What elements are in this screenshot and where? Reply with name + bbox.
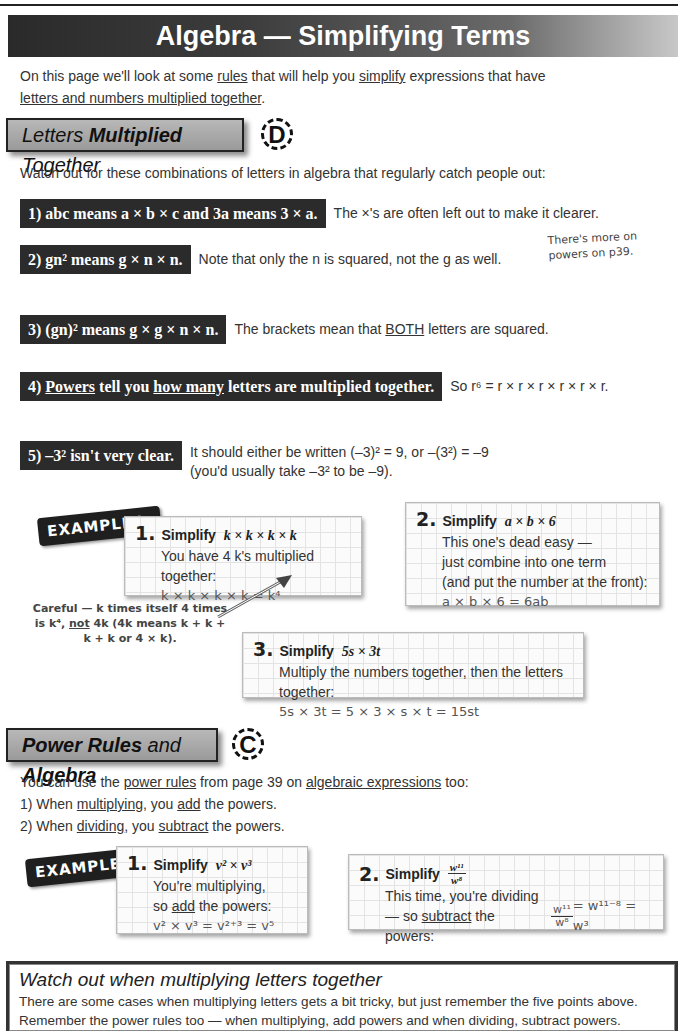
rule-5-note: It should either be written (–3)² = 9, o… — [190, 443, 489, 481]
grade-badge-d: D — [261, 118, 293, 150]
rule-2-note: Note that only the n is squared, not the… — [199, 250, 502, 269]
power-example-box-1: 1.Simplify v² × v³ You're multiplying, s… — [116, 846, 308, 934]
rule-5: 5) –3² isn't very clear. It should eithe… — [20, 441, 489, 481]
side-note-powers: There's more on powers on p39. — [547, 227, 668, 263]
summary-line-1: There are some cases when multiplying le… — [19, 992, 665, 1011]
grade-badge-c: C — [232, 728, 264, 760]
power-example-box-2: 2.Simplify w¹¹w⁸ This time, you're divid… — [348, 854, 664, 930]
rule-4: 4) Powers tell you how many letters are … — [20, 372, 608, 401]
rule-3: 3) (gn)² means g × g × n × n. The bracke… — [20, 315, 549, 344]
example-box-2: 2.Simplify a × b × 6 This one's dead eas… — [405, 502, 660, 606]
rule-2: 2) gn² means g × n × n. Note that only t… — [20, 245, 501, 274]
summary-box: Watch out when multiplying letters toget… — [6, 961, 678, 1031]
intro-text: On this page we'll look at some rules th… — [20, 65, 660, 109]
rule-2-box: 2) gn² means g × n × n. — [20, 245, 191, 274]
page-title: Algebra — Simplifying Terms — [8, 15, 678, 57]
rule-1: 1) abc means a × b × c and 3a means 3 × … — [20, 199, 599, 228]
rule-4-note: So r⁶ = r × r × r × r × r × r. — [450, 377, 608, 396]
careful-note: Careful — k times itself 4 times is k⁴, … — [30, 601, 230, 646]
top-rule — [0, 4, 678, 6]
rule-1-box: 1) abc means a × b × c and 3a means 3 × … — [20, 199, 326, 228]
section-heading-letters-multiplied: Letters Multiplied Together — [6, 118, 244, 152]
section2-lead: You can use the power rules from page 39… — [20, 772, 660, 793]
section1-lead: Watch out for these combinations of lett… — [20, 163, 660, 184]
fraction-w11-over-w8: w¹¹w⁸ — [448, 861, 466, 886]
example-box-3: 3.Simplify 5s × 3t Multiply the numbers … — [242, 632, 584, 698]
example-box-1: 1.Simplify k × k × k × k You have 4 k's … — [124, 516, 362, 596]
power-rule-2: 2) When dividing, you subtract the power… — [20, 816, 660, 837]
power-rule-1: 1) When multiplying, you add the powers. — [20, 794, 660, 815]
rule-4-box: 4) Powers tell you how many letters are … — [20, 372, 442, 401]
summary-title: Watch out when multiplying letters toget… — [19, 968, 665, 992]
summary-line-2: Remember the power rules too — when mult… — [19, 1011, 665, 1030]
rule-3-box: 3) (gn)² means g × g × n × n. — [20, 315, 226, 344]
rule-3-note: The brackets mean that BOTH letters are … — [234, 320, 548, 339]
rule-1-note: The ×'s are often left out to make it cl… — [334, 204, 599, 223]
rule-5-box: 5) –3² isn't very clear. — [20, 441, 182, 470]
section-heading-power-rules: Power Rules and Algebra — [6, 728, 218, 762]
